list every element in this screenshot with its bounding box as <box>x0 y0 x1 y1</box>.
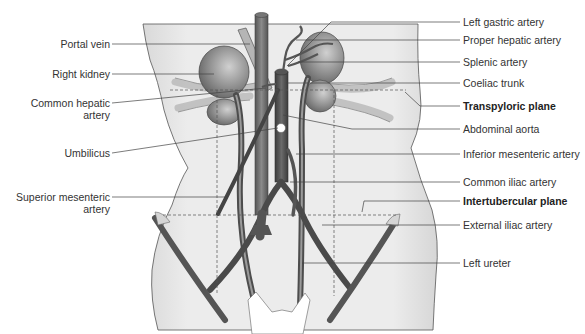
label-transpyloric-plane: Transpyloric plane <box>463 100 556 112</box>
label-right-kidney: Right kidney <box>52 68 110 80</box>
label-inferior-mesenteric-artery: Inferior mesenteric artery <box>463 148 580 160</box>
torso-outline <box>143 24 437 330</box>
label-superior-mesenteric-artery-line2: artery <box>16 203 110 215</box>
label-left-gastric-artery: Left gastric artery <box>463 16 544 28</box>
label-common-hepatic-artery-line1: Common hepatic <box>31 97 110 109</box>
label-splenic-artery: Splenic artery <box>463 56 527 68</box>
label-coeliac-trunk: Coeliac trunk <box>463 77 524 89</box>
label-left-ureter: Left ureter <box>463 257 511 269</box>
label-proper-hepatic-artery: Proper hepatic artery <box>463 34 561 46</box>
label-intertubercular-plane: Intertubercular plane <box>463 195 567 207</box>
label-external-iliac-artery: External iliac artery <box>463 219 552 231</box>
label-portal-vein: Portal vein <box>60 38 110 50</box>
label-common-hepatic-artery: Common hepatic artery <box>31 97 110 121</box>
anatomy-diagram <box>0 0 585 334</box>
label-umbilicus: Umbilicus <box>64 147 110 159</box>
label-abdominal-aorta: Abdominal aorta <box>463 123 539 135</box>
label-superior-mesenteric-artery: Superior mesenteric artery <box>16 191 110 215</box>
label-superior-mesenteric-artery-line1: Superior mesenteric <box>16 191 110 203</box>
label-common-hepatic-artery-line2: artery <box>31 109 110 121</box>
label-common-iliac-artery: Common iliac artery <box>463 176 556 188</box>
